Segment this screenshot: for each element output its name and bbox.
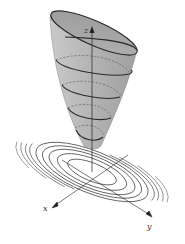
level-curve <box>110 157 167 200</box>
y-axis-label: y <box>146 222 152 231</box>
x-axis-arrow-icon <box>52 202 58 208</box>
paraboloid-surface <box>46 3 142 172</box>
xy-axes <box>52 155 152 217</box>
level-curve <box>17 143 74 186</box>
y-axis-arrow-icon <box>146 211 152 217</box>
z-axis-label: z <box>83 26 89 35</box>
paraboloid-diagram: x y z <box>0 0 185 244</box>
x-axis-label: x <box>43 204 48 213</box>
x-axis <box>54 155 128 206</box>
